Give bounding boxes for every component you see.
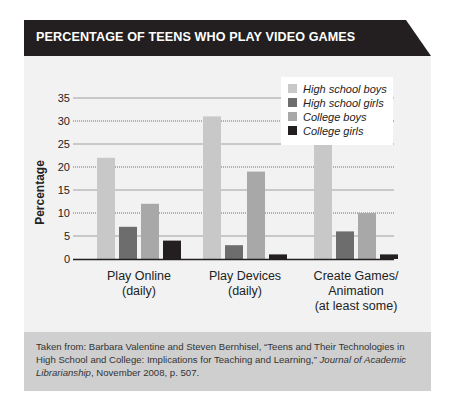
x-category-label: (at least some) — [315, 299, 398, 313]
y-tick-label: 5 — [64, 230, 70, 242]
legend-label: High school girls — [303, 97, 384, 109]
bar-college-girls — [269, 254, 287, 259]
legend-label: College boys — [303, 111, 367, 123]
x-category-label: Create Games/ — [314, 269, 399, 283]
bar-chart: 05101520253035PercentagePlay Online(dail… — [24, 56, 431, 332]
bar-high-school-boys — [97, 158, 115, 259]
bar-high-school-girls — [225, 245, 243, 259]
bar-high-school-girls — [119, 227, 137, 259]
legend-swatch — [288, 112, 297, 121]
chart-title: PERCENTAGE OF TEENS WHO PLAY VIDEO GAMES — [36, 30, 355, 44]
x-category-label: (daily) — [228, 284, 262, 298]
y-tick-label: 30 — [58, 115, 70, 127]
y-axis-label: Percentage — [33, 160, 47, 225]
y-tick-label: 20 — [58, 161, 70, 173]
legend-swatch — [288, 126, 297, 135]
legend-label: College girls — [303, 125, 364, 137]
bar-college-boys — [358, 213, 376, 259]
legend-swatch — [288, 84, 297, 93]
x-category-label: Play Online — [107, 269, 171, 283]
legend-swatch — [288, 98, 297, 107]
y-tick-label: 35 — [58, 92, 70, 104]
bar-college-boys — [247, 172, 265, 259]
y-tick-label: 10 — [58, 207, 70, 219]
x-category-label: Play Devices — [209, 269, 281, 283]
y-tick-label: 25 — [58, 138, 70, 150]
x-category-label: Animation — [328, 284, 384, 298]
y-tick-label: 0 — [64, 253, 70, 265]
title-bar: PERCENTAGE OF TEENS WHO PLAY VIDEO GAMES — [24, 20, 431, 56]
chart-area: 05101520253035PercentagePlay Online(dail… — [24, 56, 431, 332]
bar-college-girls — [380, 254, 398, 259]
bar-high-school-boys — [203, 116, 221, 259]
y-tick-label: 15 — [58, 184, 70, 196]
bar-high-school-girls — [336, 231, 354, 259]
citation-details: , November 2008, p. 507. — [91, 367, 199, 378]
x-category-label: (daily) — [122, 284, 156, 298]
bar-college-girls — [163, 241, 181, 259]
source-citation: Taken from: Barbara Valentine and Steven… — [24, 332, 431, 391]
bar-high-school-boys — [314, 144, 332, 259]
chart-card: PERCENTAGE OF TEENS WHO PLAY VIDEO GAMES… — [24, 20, 431, 391]
bar-college-boys — [141, 204, 159, 259]
legend-label: High school boys — [303, 83, 387, 95]
